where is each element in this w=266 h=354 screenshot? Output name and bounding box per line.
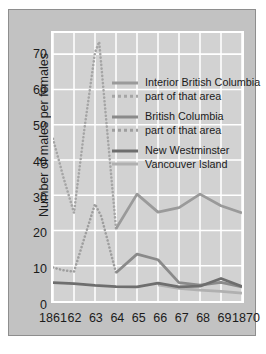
legend-swatch-dotted-icon xyxy=(112,91,138,102)
legend-item: part of that area xyxy=(112,90,252,104)
series-line xyxy=(53,204,116,273)
legend-label: New Westminster xyxy=(145,145,229,156)
x-tick-label: 1861 xyxy=(39,311,67,325)
x-tick-label: 68 xyxy=(196,311,210,325)
x-tick-label: 65 xyxy=(132,311,146,325)
y-tick-label: 0 xyxy=(21,298,47,312)
y-tick-label: 50 xyxy=(21,119,47,133)
legend-swatch-solid-icon xyxy=(112,111,138,122)
legend-spacer xyxy=(112,103,252,110)
y-tick-label: 70 xyxy=(21,47,47,61)
legend-spacer xyxy=(112,137,252,144)
legend-label: British Columbia xyxy=(145,111,224,122)
legend-label: Interior British Columbia xyxy=(145,77,260,88)
y-tick-label: 60 xyxy=(21,83,47,97)
chart-frame: Number of males per females 010203040506… xyxy=(8,9,256,336)
x-tick-label: 63 xyxy=(89,311,103,325)
x-tick-label: 1870 xyxy=(232,311,260,325)
legend-label: part of that area xyxy=(145,91,221,102)
x-axis-tick-labels: 186162636465666768691870 xyxy=(9,311,255,329)
x-tick-label: 64 xyxy=(110,311,124,325)
x-tick-label: 67 xyxy=(175,311,189,325)
legend-swatch-solid-icon xyxy=(112,145,138,156)
legend-item: part of that area xyxy=(112,124,252,138)
x-tick-label: 62 xyxy=(67,311,81,325)
legend-item: Vancouver Island xyxy=(112,158,252,172)
legend-item: New Westminster xyxy=(112,144,252,158)
y-tick-label: 40 xyxy=(21,155,47,169)
legend-swatch-dotted-icon xyxy=(112,125,138,136)
legend-label: Vancouver Island xyxy=(145,159,228,170)
y-tick-label: 20 xyxy=(21,226,47,240)
series-line xyxy=(53,42,116,229)
x-tick-label: 69 xyxy=(218,311,232,325)
x-tick-label: 66 xyxy=(153,311,167,325)
legend-item: Interior British Columbia xyxy=(112,76,252,90)
y-tick-label: 30 xyxy=(21,191,47,205)
y-tick-label: 10 xyxy=(21,262,47,276)
legend-swatch-solid-icon xyxy=(112,77,138,88)
legend-label: part of that area xyxy=(145,125,221,136)
chart-legend: Interior British Columbiapart of that ar… xyxy=(112,76,252,171)
y-axis-tick-labels: 010203040506070 xyxy=(21,10,47,335)
legend-swatch-solid-icon xyxy=(112,159,138,170)
legend-item: British Columbia xyxy=(112,110,252,124)
